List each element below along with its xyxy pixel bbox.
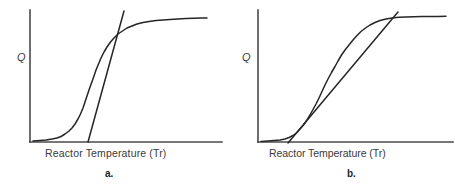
y-axis-label-b: Q xyxy=(242,52,251,63)
plot-area-a xyxy=(0,0,227,155)
x-axis-label-b: Reactor Temperature (Tr) xyxy=(269,148,386,159)
panel-caption-b: b. xyxy=(347,169,356,179)
y-axis-label-a: Q xyxy=(17,52,26,63)
panel-caption-a: a. xyxy=(105,169,113,179)
figure-panel-b: Q Reactor Temperature (Tr) b. xyxy=(228,0,455,189)
heat-generation-curve-a xyxy=(33,18,207,141)
figure-panel-a: Q Reactor Temperature (Tr) a. xyxy=(0,0,227,189)
plot-area-b xyxy=(228,0,455,155)
x-axis-label-a: Reactor Temperature (Tr) xyxy=(45,148,166,159)
heat-generation-curve-b xyxy=(261,16,446,141)
heat-removal-line-b xyxy=(288,12,398,143)
